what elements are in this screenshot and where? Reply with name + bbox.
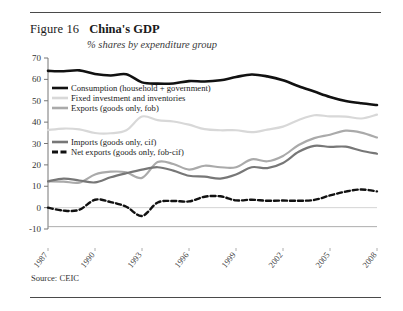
y-axis-tick-label: 10 <box>32 181 42 191</box>
x-axis-tick-label: 2002 <box>266 250 284 270</box>
x-axis-tick-label: 2008 <box>360 250 378 270</box>
x-axis-tick-label: 1993 <box>125 250 143 270</box>
legend-item: Exports (goods only, fob) <box>52 103 159 113</box>
y-axis-tick-label: 20 <box>32 160 42 170</box>
series-line <box>48 115 377 134</box>
bottom-rule <box>30 297 381 298</box>
y-axis-tick-label: 50 <box>32 96 42 106</box>
y-axis-tick-label: 40 <box>32 117 42 127</box>
y-axis-tick-label: 70 <box>32 53 42 63</box>
chart-plot-area: 706050403020100-101987199019931996199920… <box>0 0 403 311</box>
legend-label: Consumption (household + government) <box>71 83 211 93</box>
x-axis-tick-label: 1990 <box>78 250 96 270</box>
y-axis-tick-label: -10 <box>29 224 41 234</box>
x-axis-tick-label: 1987 <box>31 250 49 270</box>
legend-label: Fixed investment and inventories <box>71 93 186 103</box>
line-chart: 706050403020100-101987199019931996199920… <box>0 0 403 311</box>
legend-label: Imports (goods only, cif) <box>71 137 157 147</box>
legend-item: Consumption (household + government) <box>52 83 211 93</box>
y-axis-tick-label: 30 <box>32 139 42 149</box>
x-axis-tick-label: 1999 <box>219 250 237 270</box>
figure-container: Figure 16 China's GDP % shares by expend… <box>0 0 403 311</box>
legend-item: Imports (goods only, cif) <box>52 137 157 147</box>
source-note: Source: CEIC <box>31 273 79 283</box>
legend-label: Exports (goods only, fob) <box>71 103 159 113</box>
legend-label: Net exports (goods only, fob-cif) <box>71 147 184 157</box>
x-axis-tick-label: 2005 <box>313 250 331 270</box>
y-axis-tick-label: 0 <box>37 203 42 213</box>
y-axis-tick-label: 60 <box>32 74 42 84</box>
legend-item: Net exports (goods only, fob-cif) <box>52 147 184 157</box>
series-line <box>48 189 377 216</box>
x-axis-tick-label: 1996 <box>172 250 190 270</box>
legend-item: Fixed investment and inventories <box>52 93 186 103</box>
